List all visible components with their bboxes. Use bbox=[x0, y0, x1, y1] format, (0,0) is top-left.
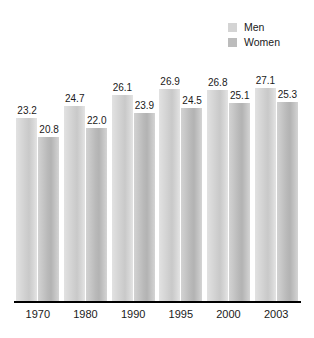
bar-women-2003 bbox=[277, 102, 298, 301]
bar-value-men-1990: 26.1 bbox=[113, 82, 142, 93]
x-axis-tick-labels: 197019801990199520002003 bbox=[14, 307, 300, 327]
bar-women-1980 bbox=[86, 128, 107, 301]
tick-label-1995: 1995 bbox=[157, 307, 205, 321]
legend-item-women: Women bbox=[228, 36, 280, 48]
bar-group: 27.125.3 bbox=[252, 60, 300, 301]
chart-legend: Men Women bbox=[228, 21, 280, 48]
bar-women-1990 bbox=[134, 113, 155, 301]
x-axis-line bbox=[14, 301, 301, 303]
tick-label-1980: 1980 bbox=[62, 307, 110, 321]
legend-label-women: Women bbox=[244, 37, 280, 48]
tick-label-2000: 2000 bbox=[205, 307, 253, 321]
legend-swatch-men bbox=[228, 23, 237, 32]
bar-group: 24.722.0 bbox=[62, 60, 110, 301]
bar-men-2003 bbox=[255, 88, 276, 301]
bar-group: 26.924.5 bbox=[157, 60, 205, 301]
legend-label-men: Men bbox=[244, 22, 264, 33]
bar-value-men-1980: 24.7 bbox=[65, 93, 94, 104]
bar-value-men-2000: 26.8 bbox=[208, 77, 237, 88]
bar-men-2000 bbox=[207, 90, 228, 301]
bar-men-1995 bbox=[159, 89, 180, 301]
bar-value-women-2003: 25.3 bbox=[278, 89, 307, 100]
bar-value-men-1970: 23.2 bbox=[17, 105, 46, 116]
bar-men-1990 bbox=[112, 95, 133, 301]
legend-item-men: Men bbox=[228, 21, 280, 33]
bar-women-1970 bbox=[38, 137, 59, 301]
bar-chart: Men Women 23.220.824.722.026.123.926.924… bbox=[0, 0, 314, 338]
legend-swatch-women bbox=[228, 38, 237, 47]
bar-men-1970 bbox=[16, 118, 37, 301]
bar-value-men-2003: 27.1 bbox=[256, 75, 285, 86]
bar-group: 26.825.1 bbox=[205, 60, 253, 301]
bar-men-1980 bbox=[64, 106, 85, 301]
tick-label-1990: 1990 bbox=[109, 307, 157, 321]
bar-group: 26.123.9 bbox=[109, 60, 157, 301]
bar-value-men-1995: 26.9 bbox=[160, 76, 189, 87]
bar-women-2000 bbox=[229, 103, 250, 301]
bar-group: 23.220.8 bbox=[14, 60, 62, 301]
tick-label-1970: 1970 bbox=[14, 307, 62, 321]
bar-women-1995 bbox=[181, 108, 202, 301]
tick-label-2003: 2003 bbox=[252, 307, 300, 321]
plot-area: 23.220.824.722.026.123.926.924.526.825.1… bbox=[14, 60, 300, 301]
